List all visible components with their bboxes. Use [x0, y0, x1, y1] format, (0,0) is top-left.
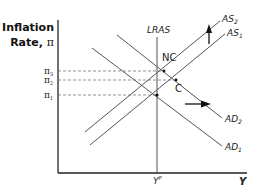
nc-label: NC: [162, 52, 176, 63]
as1-label: AS1: [226, 28, 243, 39]
pi1-label: π1: [44, 90, 53, 101]
ad1-label: AD1: [224, 142, 242, 153]
as2-label: AS2: [221, 14, 238, 25]
ad2-label: AD2: [224, 114, 242, 125]
as-shift-up-arrow-icon: [206, 24, 212, 44]
x-axis-label: Y: [239, 176, 248, 187]
c-label: C: [175, 83, 182, 94]
point-initial: [155, 93, 158, 96]
lras-label: LRAS: [147, 25, 170, 35]
yp-tick-label: YP: [153, 175, 162, 186]
as2-curve: [85, 21, 220, 132]
point-c: [175, 79, 178, 82]
point-nc: [163, 70, 166, 73]
ad-as-diagram: π3 π2 π1 LRAS AS2 AS1 AD2 AD1 NC C YP Y: [0, 0, 253, 192]
